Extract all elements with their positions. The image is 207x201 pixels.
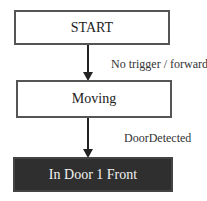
state-start: START [14,10,170,45]
state-moving-label: Moving [72,91,116,107]
state-in-door-1-front: In Door 1 Front [13,157,173,192]
edge-moving-to-door-label: DoorDetected [124,131,191,146]
edge-start-to-moving-line [87,45,89,73]
edge-start-to-moving-label: No trigger / forward [111,57,207,72]
state-moving: Moving [16,80,172,118]
state-start-label: START [71,20,113,36]
edge-moving-to-door-line [87,118,89,150]
state-in-door-1-front-label: In Door 1 Front [49,167,137,183]
